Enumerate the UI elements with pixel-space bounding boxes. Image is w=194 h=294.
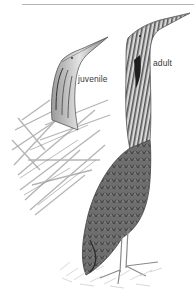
adult-label: adult <box>153 58 172 68</box>
bittern-illustration <box>0 0 194 294</box>
adult-bird <box>82 13 190 284</box>
juvenile-label: juvenile <box>78 74 108 84</box>
ground-grass <box>60 262 162 288</box>
